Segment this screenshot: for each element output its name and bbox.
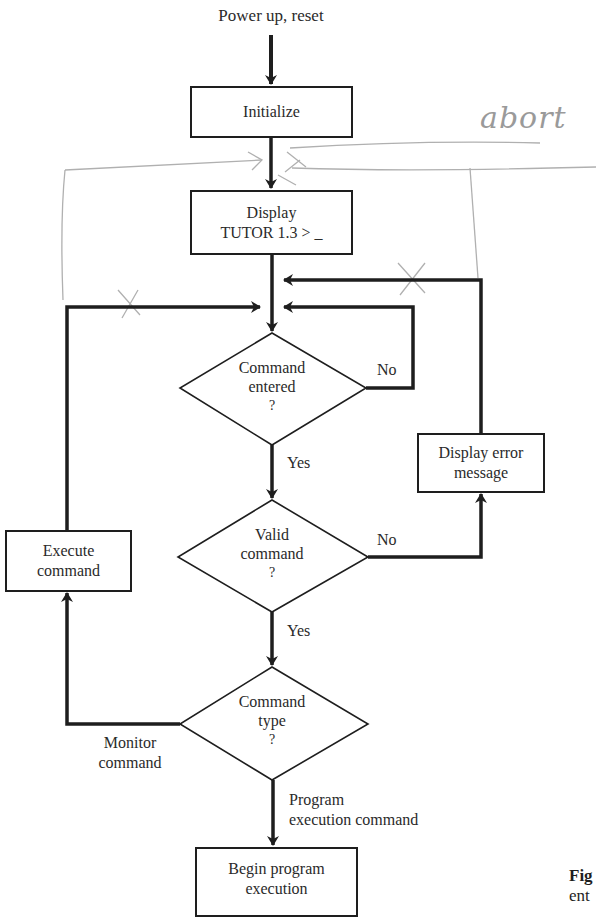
decision-entered-line1: Command xyxy=(212,358,332,377)
decision-type-line3: ? xyxy=(212,730,332,749)
monitor-command-label: Monitor command xyxy=(80,733,180,773)
display-prompt-box: Display TUTOR 1.3 > _ xyxy=(190,190,353,255)
entered-yes-label: Yes xyxy=(287,453,310,473)
display-prompt-line1: Display xyxy=(247,203,297,223)
program-line1: Program xyxy=(289,790,418,810)
valid-yes-label: Yes xyxy=(287,621,310,641)
monitor-line1: Monitor xyxy=(80,733,180,753)
caption-bold: Fig xyxy=(569,866,593,886)
decision-type-line2: type xyxy=(212,711,332,730)
display-error-line2: message xyxy=(454,463,508,483)
figure-caption-fragment: Fig ent xyxy=(569,866,593,906)
program-execution-label: Program execution command xyxy=(289,790,418,830)
begin-program-box: Begin program execution xyxy=(195,847,358,917)
decision-command-type: Command type ? xyxy=(212,692,332,749)
display-error-box: Display error message xyxy=(417,433,545,493)
monitor-line2: command xyxy=(80,753,180,773)
display-error-line1: Display error xyxy=(439,443,524,463)
decision-command-entered: Command entered ? xyxy=(212,358,332,415)
decision-entered-line3: ? xyxy=(212,396,332,415)
program-line2: execution command xyxy=(289,810,418,830)
execute-line1: Execute xyxy=(43,541,95,561)
begin-line1: Begin program xyxy=(228,859,324,879)
start-label: Power up, reset xyxy=(200,6,342,26)
decision-valid-line1: Valid xyxy=(212,525,332,544)
begin-line2: execution xyxy=(245,879,307,899)
decision-entered-line2: entered xyxy=(212,377,332,396)
execute-command-box: Execute command xyxy=(5,530,132,592)
decision-type-line1: Command xyxy=(212,692,332,711)
entered-no-label: No xyxy=(377,360,397,380)
decision-valid-command: Valid command ? xyxy=(212,525,332,582)
execute-line2: command xyxy=(37,561,100,581)
caption-text: ent xyxy=(569,886,593,906)
initialize-box: Initialize xyxy=(190,86,353,138)
display-prompt-line2: TUTOR 1.3 > _ xyxy=(220,223,322,243)
initialize-label: Initialize xyxy=(243,102,300,122)
decision-valid-line2: command xyxy=(212,544,332,563)
valid-no-label: No xyxy=(377,530,397,550)
handwritten-abort-note: abort xyxy=(480,100,567,135)
decision-valid-line3: ? xyxy=(212,563,332,582)
